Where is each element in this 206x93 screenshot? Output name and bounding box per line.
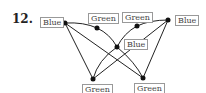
graph-node [115,45,120,50]
graph-node [95,26,100,31]
graph-node [141,76,146,81]
node-label: Blue [124,39,148,50]
graph-node [166,18,171,23]
node-label: Blue [175,15,199,26]
graph-node [135,24,140,29]
graph-node [91,77,96,82]
node-label: Blue [40,17,64,28]
node-label: Green [134,83,165,93]
node-label: Green [88,13,119,24]
node-label: Green [82,84,113,93]
node-label: Green [122,12,153,23]
